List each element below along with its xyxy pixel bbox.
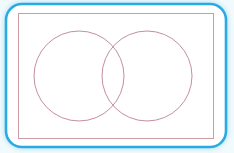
figure-canvas [0,0,234,153]
venn-diagram-figure [0,0,234,153]
rounded-blue-frame [6,4,226,147]
